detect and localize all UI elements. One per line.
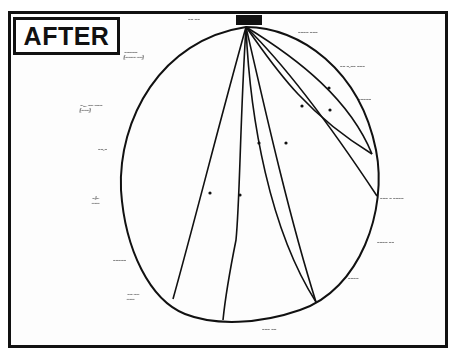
- handwritten-label: ~~~ ~~: [262, 327, 277, 332]
- title-text: AFTER: [24, 22, 110, 51]
- handwritten-label: ~~ ~.~~ ~~~: [340, 64, 365, 69]
- handwritten-label: ~~ ~~: [188, 17, 200, 22]
- title-box: AFTER: [13, 17, 120, 55]
- handwritten-label: ~/~~~~: [91, 196, 100, 206]
- hub-node: [236, 15, 262, 25]
- handwritten-label: ~~~~~(~~~~ ~~): [123, 50, 144, 60]
- handwritten-label: ~~.~: [98, 147, 108, 152]
- handwritten-label: ~~~ ~ ~~~~: [380, 196, 404, 201]
- handwritten-label: ~~~~~: [358, 97, 372, 102]
- handwritten-label: ~~~~ ~~~: [298, 30, 318, 35]
- handwritten-label: ~~ ~~~~~: [126, 292, 139, 302]
- handwritten-label: ~~~~: [348, 276, 359, 281]
- handwritten-label: ~... ~~ ~~~(~~~): [79, 103, 102, 113]
- handwritten-label: ~~~~ ~~: [377, 240, 395, 245]
- handwritten-label: ~~~~~: [113, 258, 127, 263]
- edge-arrows: [208, 86, 331, 196]
